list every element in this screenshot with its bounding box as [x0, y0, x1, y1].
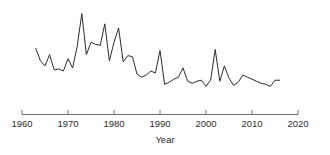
x-tick-label: 2010	[232, 118, 272, 129]
line-chart-plot	[0, 0, 330, 155]
x-axis-ticks	[22, 110, 298, 115]
chart-container: 1960197019801990200020102020 Year	[0, 0, 330, 155]
x-tick-label: 1970	[48, 118, 88, 129]
x-axis-title: Year	[0, 134, 330, 145]
x-tick-label: 1990	[140, 118, 180, 129]
data-series-line	[36, 14, 280, 87]
x-tick-label: 2020	[278, 118, 318, 129]
x-tick-label: 2000	[186, 118, 226, 129]
x-tick-label: 1980	[94, 118, 134, 129]
x-tick-label: 1960	[2, 118, 42, 129]
